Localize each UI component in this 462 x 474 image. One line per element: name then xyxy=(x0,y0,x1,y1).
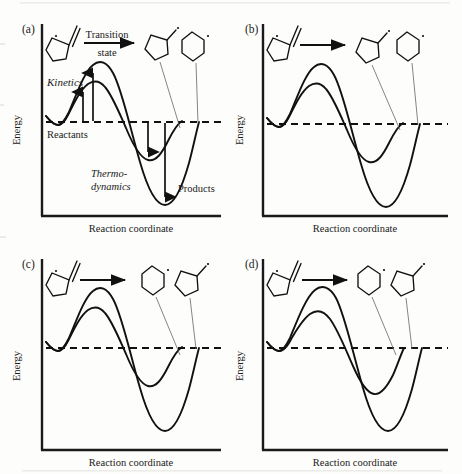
panel-d-label: (d) xyxy=(245,258,259,271)
reaction-coordinate-figure: (a) Energy Reaction coordinate Reactants… xyxy=(0,0,462,474)
panel-b-y-axis-label: Energy xyxy=(234,114,245,145)
panel-a-thermo-label-line2: dynamics xyxy=(91,181,131,192)
panel-a-thermo-label-line1: Thermo- xyxy=(91,168,128,179)
panel-c-y-axis-label: Energy xyxy=(11,350,22,381)
panel-b-x-axis-label: Reaction coordinate xyxy=(313,223,398,234)
panel-a-x-axis-label: Reaction coordinate xyxy=(89,223,174,234)
panel-b-label: (b) xyxy=(245,23,259,36)
panel-a-transition-state-line2: state xyxy=(97,47,117,58)
panel-a-label: (a) xyxy=(22,23,35,36)
figure-background xyxy=(0,0,462,474)
panel-d-y-axis-label: Energy xyxy=(234,350,245,381)
panel-a-reactants-label: Reactants xyxy=(47,129,88,140)
panel-a-kinetics-label: Kinetics xyxy=(46,76,83,88)
panel-d-x-axis-label: Reaction coordinate xyxy=(313,457,398,468)
panel-c-x-axis-label: Reaction coordinate xyxy=(89,457,174,468)
panel-c-label: (c) xyxy=(22,258,35,271)
panel-a-y-axis-label: Energy xyxy=(11,114,22,145)
panel-a-transition-state-line1: Transition xyxy=(86,29,130,40)
panel-a-products-label: Products xyxy=(178,183,215,194)
